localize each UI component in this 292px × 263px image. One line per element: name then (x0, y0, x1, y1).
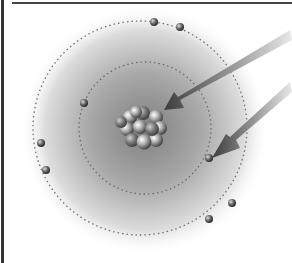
electron-cloud (17, 7, 273, 257)
electron (228, 199, 236, 207)
electron (205, 215, 213, 223)
electron (150, 18, 158, 26)
electron (80, 99, 88, 107)
electron (42, 166, 50, 174)
electron (205, 154, 213, 162)
atom-diagram (0, 0, 292, 263)
electron (176, 23, 184, 31)
electron (37, 139, 45, 147)
